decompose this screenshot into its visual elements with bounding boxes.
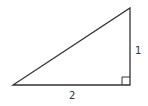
vertical-side-label: 1: [135, 45, 141, 56]
horizontal-side-label: 2: [69, 90, 75, 101]
right-angle-marker: [122, 77, 130, 85]
right-triangle-diagram: 1 2: [0, 0, 148, 106]
triangle: [13, 8, 130, 85]
